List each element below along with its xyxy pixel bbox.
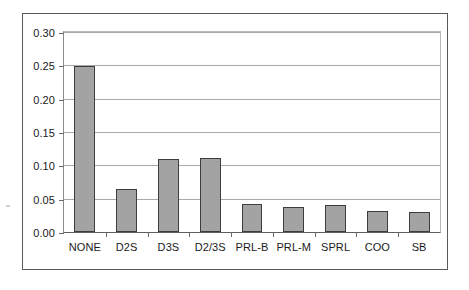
y-axis-tick-label: 0.15 <box>33 127 55 139</box>
x-axis-label-sprl: SPRL <box>321 241 350 253</box>
figure-frame: 0.000.050.100.150.200.250.30 NONED2SD3SD… <box>22 13 448 270</box>
x-tick-mark <box>148 232 149 237</box>
bar-sprl[interactable] <box>325 205 346 232</box>
bar-none[interactable] <box>74 66 95 232</box>
x-axis-label-sb: SB <box>412 241 427 253</box>
x-axis-label-d2s: D2S <box>116 241 138 253</box>
bar-series <box>64 32 440 232</box>
x-axis-label-prl-b: PRL-B <box>236 241 269 253</box>
x-tick-mark <box>106 232 107 237</box>
bar-prl-m[interactable] <box>283 207 304 232</box>
x-tick-mark <box>398 232 399 237</box>
x-axis-label-d2-3s: D2/3S <box>195 241 226 253</box>
x-axis-label-prl-m: PRL-M <box>276 241 311 253</box>
bar-prl-b[interactable] <box>242 204 263 232</box>
x-axis-label-coo: COO <box>365 241 390 253</box>
x-tick-mark <box>315 232 316 237</box>
bar-d2s[interactable] <box>116 189 137 232</box>
bar-d2-3s[interactable] <box>200 158 221 232</box>
y-axis-tick-label: 0.00 <box>33 227 55 239</box>
bar-coo[interactable] <box>367 211 388 232</box>
x-tick-mark <box>273 232 274 237</box>
bar-d3s[interactable] <box>158 159 179 232</box>
x-tick-mark <box>356 232 357 237</box>
x-tick-mark <box>189 232 190 237</box>
x-axis-label-d3s: D3S <box>158 241 180 253</box>
y-axis-tick-label: 0.30 <box>33 27 55 39</box>
y-tick-mark <box>59 233 64 234</box>
y-axis-tick-label: 0.05 <box>33 194 55 206</box>
x-tick-mark <box>231 232 232 237</box>
x-axis-label-none: NONE <box>69 241 101 253</box>
y-axis-tick-label: 0.20 <box>33 94 55 106</box>
gridline-0.00: 0.00 <box>64 232 440 233</box>
bar-sb[interactable] <box>409 212 430 232</box>
scan-artifact-speck <box>6 205 10 207</box>
y-axis-tick-label: 0.10 <box>33 160 55 172</box>
plot-area: 0.000.050.100.150.200.250.30 NONED2SD3SD… <box>63 31 441 233</box>
y-axis-tick-label: 0.25 <box>33 60 55 72</box>
